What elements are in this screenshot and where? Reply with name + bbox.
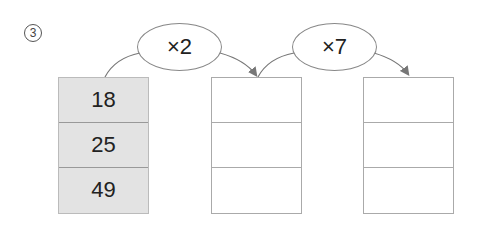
answer-cell[interactable] — [364, 123, 453, 168]
arrow-curve-1-out — [220, 53, 256, 75]
input-cell: 18 — [59, 78, 148, 123]
operation-times-2: ×2 — [137, 23, 222, 71]
answer-cell[interactable] — [364, 168, 453, 213]
arrow-curve-1-in — [105, 53, 140, 77]
answer-cell[interactable] — [364, 78, 453, 123]
arrow-curve-2-out — [374, 53, 408, 74]
input-column: 18 25 49 — [58, 77, 149, 214]
answer-cell[interactable] — [212, 168, 301, 213]
output-column — [363, 77, 454, 214]
input-cell: 25 — [59, 123, 148, 168]
answer-cell[interactable] — [212, 123, 301, 168]
arrow-curve-2-in — [258, 53, 294, 77]
answer-cell[interactable] — [212, 78, 301, 123]
operation-times-7: ×7 — [292, 23, 377, 71]
input-cell: 49 — [59, 168, 148, 213]
middle-column — [211, 77, 302, 214]
